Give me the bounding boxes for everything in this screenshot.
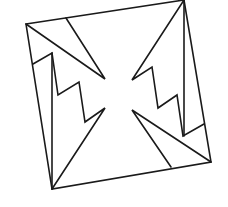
bottom-right-triangle — [132, 110, 211, 167]
geometric-figure — [0, 0, 228, 207]
right-zigzag — [132, 0, 204, 136]
figure-svg — [0, 0, 228, 207]
top-left-triangle — [26, 18, 105, 79]
left-zigzag — [33, 53, 105, 189]
